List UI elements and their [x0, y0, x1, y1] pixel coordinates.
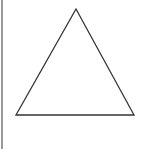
- triangle-diagram: [0, 0, 148, 149]
- triangle-shape: [16, 9, 134, 115]
